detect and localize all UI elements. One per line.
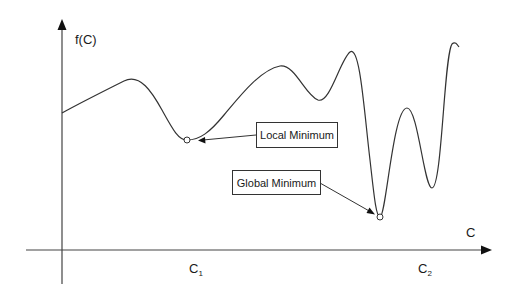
global-minimum-marker: [377, 214, 383, 220]
local-minimum-marker: [184, 137, 190, 143]
tick-label-c2: C2: [418, 262, 432, 278]
y-axis-label: f(C): [75, 33, 97, 46]
global-minimum-pointer: [320, 183, 371, 212]
x-axis-arrow-icon: [481, 246, 492, 255]
y-axis-arrow-icon: [58, 19, 67, 30]
local-minimum-pointer: [203, 135, 256, 140]
tick-label-c2-sub: 2: [427, 269, 431, 278]
tick-label-c1: C1: [189, 262, 203, 278]
x-axis-label: C: [466, 226, 475, 239]
global-minimum-callout: Global Minimum: [232, 170, 321, 195]
global-minimum-arrowhead-icon: [367, 208, 376, 215]
local-minimum-callout: Local Minimum: [256, 122, 338, 148]
tick-label-c1-base: C: [189, 261, 198, 276]
tick-label-c1-sub: 1: [198, 269, 202, 278]
tick-label-c2-base: C: [418, 261, 427, 276]
